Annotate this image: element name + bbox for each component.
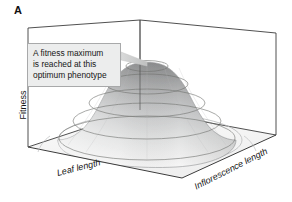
callout-annotation: A fitness maximum is reached at this opt…	[27, 43, 121, 87]
surface-plot-graphic	[0, 0, 292, 202]
axis-label-fitness: Fitness	[18, 75, 28, 135]
callout-line-2: is reached at this	[33, 59, 116, 70]
callout-line-1: A fitness maximum	[33, 48, 116, 59]
figure-container: A A fitness maximum is reached at this o…	[0, 0, 292, 202]
callout-line-3: optimum phenotype	[33, 70, 116, 81]
panel-label: A	[14, 4, 22, 16]
